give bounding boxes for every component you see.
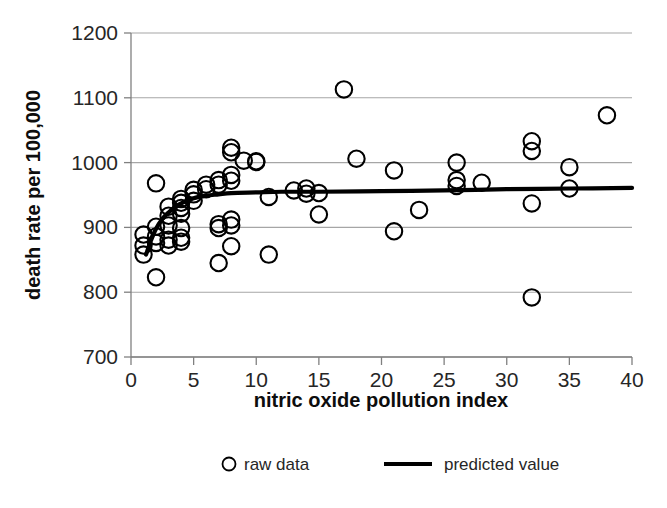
y-tick-label-1100: 1100 [73, 86, 118, 109]
x-tick-label-30: 30 [495, 368, 518, 391]
scatter-chart: 700800900100011001200 0510152025303540 n… [0, 0, 667, 508]
x-axis-title: nitric oxide pollution index [254, 389, 508, 411]
x-tick-label-5: 5 [188, 368, 200, 391]
y-tick-label-900: 900 [83, 215, 118, 238]
y-tick-label-700: 700 [83, 345, 118, 368]
x-tick-label-10: 10 [245, 368, 268, 391]
y-axis-title: death rate per 100,000 [22, 90, 44, 300]
x-tick-label-40: 40 [620, 368, 643, 391]
y-tick-label-1200: 1200 [71, 21, 118, 44]
x-tick-label-0: 0 [125, 368, 137, 391]
x-tick-label-20: 20 [370, 368, 393, 391]
legend-predicted-value-label: predicted value [444, 455, 559, 474]
y-tick-label-1000: 1000 [71, 151, 118, 174]
chart-canvas: 700800900100011001200 0510152025303540 n… [0, 0, 667, 508]
x-tick-label-15: 15 [307, 368, 330, 391]
x-tick-label-35: 35 [558, 368, 581, 391]
chart-background [0, 0, 667, 508]
legend-raw-data-label: raw data [244, 455, 310, 474]
x-tick-label-25: 25 [432, 368, 455, 391]
y-tick-label-800: 800 [83, 280, 118, 303]
